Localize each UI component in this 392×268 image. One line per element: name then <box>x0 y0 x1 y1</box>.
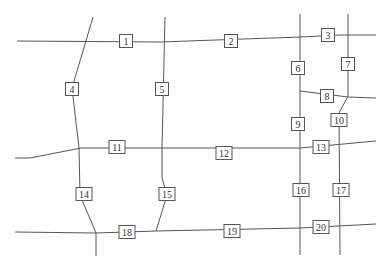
label-text: 1 <box>124 36 129 47</box>
label-text: 19 <box>227 226 237 237</box>
link-label-15: 15 <box>159 188 175 201</box>
label-text: 10 <box>334 115 344 126</box>
link-label-6: 6 <box>292 62 305 75</box>
link-label-8: 8 <box>321 90 334 103</box>
label-text: 9 <box>296 119 301 130</box>
link-label-12: 12 <box>216 147 232 160</box>
link-label-9: 9 <box>292 118 305 131</box>
label-text: 6 <box>296 63 301 74</box>
link-label-4: 4 <box>66 83 79 96</box>
label-text: 16 <box>296 185 306 196</box>
road-v-right2 <box>339 14 348 255</box>
label-text: 12 <box>219 148 229 159</box>
road-network-canvas: 1234567891011121314151617181920 <box>0 0 392 268</box>
label-text: 8 <box>325 91 330 102</box>
link-label-14: 14 <box>76 188 92 201</box>
link-label-19: 19 <box>224 225 240 238</box>
label-text: 14 <box>79 189 89 200</box>
link-label-5: 5 <box>156 83 169 96</box>
label-text: 7 <box>346 59 351 70</box>
road-h-mid-right <box>300 91 376 98</box>
link-label-3: 3 <box>322 29 335 42</box>
label-text: 17 <box>336 185 346 196</box>
link-label-20: 20 <box>313 221 329 234</box>
label-text: 13 <box>316 142 326 153</box>
link-label-2: 2 <box>225 35 238 48</box>
link-label-11: 11 <box>109 141 125 154</box>
link-labels: 1234567891011121314151617181920 <box>66 29 355 239</box>
label-text: 11 <box>112 142 122 153</box>
link-label-1: 1 <box>120 35 133 48</box>
road-network-diagram: 1234567891011121314151617181920 <box>0 0 392 268</box>
label-text: 18 <box>122 227 132 238</box>
link-label-18: 18 <box>119 226 135 239</box>
label-text: 20 <box>316 222 326 233</box>
link-label-10: 10 <box>331 114 347 127</box>
label-text: 3 <box>326 30 331 41</box>
link-label-13: 13 <box>313 141 329 154</box>
label-text: 4 <box>70 84 75 95</box>
link-label-17: 17 <box>333 184 349 197</box>
label-text: 15 <box>162 189 172 200</box>
road-v-left <box>72 17 96 256</box>
link-label-7: 7 <box>342 58 355 71</box>
label-text: 5 <box>160 84 165 95</box>
label-text: 2 <box>229 36 234 47</box>
road-lines <box>15 14 376 256</box>
link-label-16: 16 <box>293 184 309 197</box>
